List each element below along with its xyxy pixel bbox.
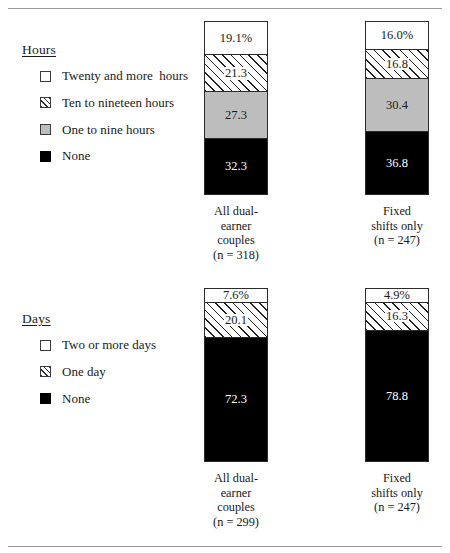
bar-segment-one-day: 16.3: [366, 302, 428, 330]
caption-line: (n = 247): [352, 233, 442, 248]
legend-item-twenty-and-more-hours: Twenty and more hours: [40, 69, 200, 83]
segment-value: 19.1%: [220, 32, 252, 45]
segment-value: 27.3: [225, 109, 247, 122]
bar-caption: All dual- earner couples (n = 299): [191, 471, 281, 529]
segment-value: 4.9%: [384, 289, 410, 302]
bar-segment-ten-to-nineteen-hours: 21.3: [205, 54, 267, 91]
legend-label: Twenty and more hours: [62, 69, 188, 83]
stacked-bar: 4.9% 16.3 78.8: [365, 288, 429, 462]
legend-swatch-hatch-icon: [40, 97, 51, 108]
segment-value: 36.8: [386, 157, 408, 170]
caption-line: earner: [191, 486, 281, 501]
segment-value: 30.4: [386, 99, 408, 112]
stacked-bar: 19.1% 21.3 27.3 32.3: [204, 21, 268, 195]
legend-title-hours: Hours: [22, 42, 200, 58]
legend-swatch-gray-icon: [40, 124, 51, 135]
bar-segment-twenty-and-more-hours: 19.1%: [205, 22, 267, 54]
legend-label: None: [62, 149, 90, 163]
bar-segment-ten-to-nineteen-hours: 16.8: [366, 49, 428, 78]
caption-line: earner: [191, 219, 281, 234]
segment-value: 32.3: [225, 160, 247, 173]
segment-value: 20.1: [224, 314, 248, 327]
chart-panel-days: Days Two or more days One day None 7.6%: [0, 285, 450, 543]
bar-segment-none: 78.8: [366, 330, 428, 462]
legend-item-two-or-more-days: Two or more days: [40, 338, 200, 352]
legend-item-one-to-nine-hours: One to nine hours: [40, 123, 200, 137]
bar-segment-two-or-more-days: 7.6%: [205, 289, 267, 302]
legend-label: One day: [62, 365, 106, 379]
caption-line: couples: [191, 233, 281, 248]
bar-segment-none: 32.3: [205, 138, 267, 194]
bar-column-hours-all-dual-earner-couples: 19.1% 21.3 27.3 32.3 All dual- earner co…: [204, 21, 268, 262]
figure-root: Hours Twenty and more hours Ten to ninet…: [0, 0, 450, 553]
legend-label: None: [62, 392, 90, 406]
caption-line: (n = 247): [352, 500, 442, 515]
bar-caption: Fixed shifts only (n = 247): [352, 471, 442, 515]
caption-line: shifts only: [352, 486, 442, 501]
caption-line: (n = 318): [191, 248, 281, 263]
segment-value: 16.8: [385, 58, 409, 71]
segment-value: 16.3: [385, 310, 409, 323]
bar-caption: Fixed shifts only (n = 247): [352, 204, 442, 248]
bar-caption: All dual- earner couples (n = 318): [191, 204, 281, 262]
chart-panel-hours: Hours Twenty and more hours Ten to ninet…: [0, 18, 450, 280]
bar-segment-one-day: 20.1: [205, 302, 267, 337]
legend-swatch-white-icon: [40, 340, 51, 351]
legend-hours: Hours Twenty and more hours Ten to ninet…: [22, 42, 200, 176]
caption-line: (n = 299): [191, 515, 281, 530]
legend-item-one-day: One day: [40, 365, 200, 379]
legend-swatch-white-icon: [40, 71, 51, 82]
bar-segment-none: 36.8: [366, 131, 428, 194]
segment-value: 78.8: [386, 390, 408, 403]
bar-segment-one-to-nine-hours: 27.3: [205, 91, 267, 138]
segment-value: 7.6%: [223, 289, 249, 302]
legend-label: Two or more days: [62, 338, 156, 352]
bar-segment-none: 72.3: [205, 337, 267, 461]
caption-line: Fixed: [352, 471, 442, 486]
legend-days: Days Two or more days One day None: [22, 311, 200, 418]
caption-line: All dual-: [191, 204, 281, 219]
bar-segment-two-or-more-days: 4.9%: [366, 289, 428, 302]
top-rule: [8, 8, 442, 9]
legend-title-days: Days: [22, 311, 200, 327]
caption-line: couples: [191, 500, 281, 515]
caption-line: shifts only: [352, 219, 442, 234]
stacked-bar: 7.6% 20.1 72.3: [204, 288, 268, 462]
segment-value: 72.3: [225, 393, 247, 406]
segment-value: 21.3: [224, 67, 248, 80]
segment-value: 16.0%: [381, 29, 413, 42]
legend-item-none: None: [40, 149, 200, 163]
bar-segment-twenty-and-more-hours: 16.0%: [366, 22, 428, 49]
legend-item-ten-to-nineteen-hours: Ten to nineteen hours: [40, 96, 200, 110]
bar-column-days-all-dual-earner-couples: 7.6% 20.1 72.3 All dual- earner couples …: [204, 288, 268, 529]
caption-line: Fixed: [352, 204, 442, 219]
legend-swatch-black-icon: [40, 393, 51, 404]
bar-column-days-fixed-shifts-only: 4.9% 16.3 78.8 Fixed shifts only (n = 24…: [365, 288, 429, 515]
legend-swatch-hatch-icon: [40, 366, 51, 377]
bar-segment-one-to-nine-hours: 30.4: [366, 78, 428, 130]
legend-swatch-black-icon: [40, 151, 51, 162]
caption-line: All dual-: [191, 471, 281, 486]
legend-label: Ten to nineteen hours: [62, 96, 174, 110]
bar-column-hours-fixed-shifts-only: 16.0% 16.8 30.4 36.8 Fixed shifts only (…: [365, 21, 429, 248]
legend-item-none: None: [40, 392, 200, 406]
bottom-rule: [8, 546, 442, 547]
stacked-bar: 16.0% 16.8 30.4 36.8: [365, 21, 429, 195]
legend-label: One to nine hours: [62, 123, 155, 137]
